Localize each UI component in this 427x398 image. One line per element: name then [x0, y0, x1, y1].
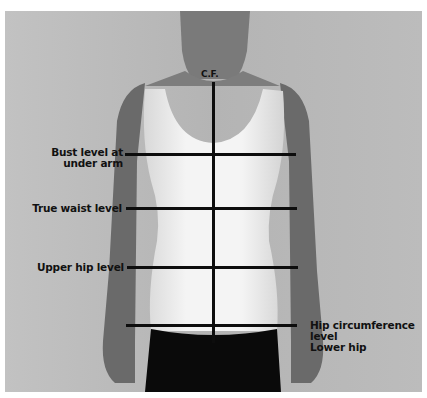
waist-level-line	[126, 207, 297, 210]
hip-level-label: Hip circumference level Lower hip	[310, 320, 415, 353]
upper-hip-level-line	[127, 266, 298, 269]
bust-level-line	[125, 153, 296, 156]
photo-figure: C.F. Bust level at under arm True waist …	[5, 11, 422, 392]
hip-level-line	[126, 324, 297, 327]
waist-level-label: True waist level	[32, 203, 122, 214]
center-front-line	[212, 82, 215, 343]
upper-hip-level-label: Upper hip level	[37, 262, 124, 273]
center-front-label: C.F.	[201, 69, 218, 80]
bust-level-label: Bust level at under arm	[51, 147, 123, 169]
